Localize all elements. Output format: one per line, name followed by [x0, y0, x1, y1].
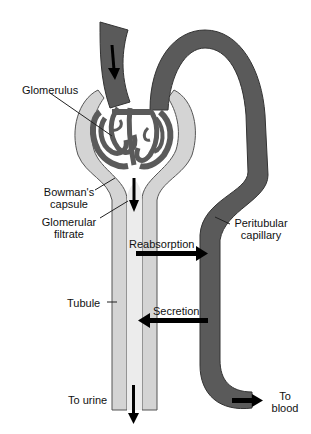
glomerular-filtrate-label-line2: filtrate [40, 228, 98, 240]
reabsorption-label: Reabsorption [129, 238, 194, 250]
glomerular-filtrate-label: Glomerular filtrate [40, 216, 98, 240]
glomerulus [93, 108, 170, 167]
to-blood-label: To blood [268, 390, 302, 414]
glomerulus-label: Glomerulus [22, 84, 78, 96]
bowmans-capsule-label: Bowman's capsule [42, 186, 96, 210]
tubule-label: Tubule [67, 297, 100, 309]
to-blood-label-line2: blood [268, 402, 302, 414]
peritubular-capillary-label: Peritubular capillary [231, 217, 291, 241]
bowmans-capsule-label-line2: capsule [42, 198, 96, 210]
glomerular-filtrate-label-line1: Glomerular [40, 216, 98, 228]
to-urine-label: To urine [68, 394, 107, 406]
to-blood-label-line1: To [268, 390, 302, 402]
nephron-diagram: Glomerulus Bowman's capsule Glomerular f… [0, 0, 311, 434]
bowmans-capsule-label-line1: Bowman's [42, 186, 96, 198]
secretion-label: Secretion [153, 305, 199, 317]
peritubular-capillary-label-line1: Peritubular [231, 217, 291, 229]
peritubular-capillary-label-line2: capillary [231, 229, 291, 241]
